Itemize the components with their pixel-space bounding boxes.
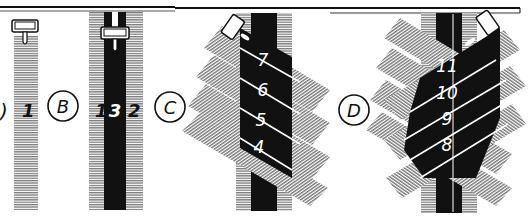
stroke-number: 5 xyxy=(256,110,267,130)
stroke-number: 9 xyxy=(442,109,453,129)
panel-c: C 7 6 5 4 xyxy=(155,13,330,211)
stroke-number: 6 xyxy=(258,80,269,100)
stroke-number: 2 xyxy=(128,100,141,121)
stroke-number: 7 xyxy=(258,50,269,70)
panel-d: D 11 10 9 xyxy=(339,10,526,213)
stroke-number: 8 xyxy=(442,135,453,155)
panel-d-label: D xyxy=(347,100,361,121)
stroke-number: 1 xyxy=(95,100,108,121)
panel-c-label: C xyxy=(164,97,177,118)
roller-stroke-sequence-diagram: ) 1 B 1 3 2 C xyxy=(0,0,528,220)
stroke-number: 3 xyxy=(109,100,122,121)
stroke-number: 1 xyxy=(22,100,35,121)
panel-b: B 1 3 2 xyxy=(48,12,143,210)
stroke-number: 10 xyxy=(436,83,458,103)
panel-a-label: ) xyxy=(0,99,8,123)
stroke-number: 4 xyxy=(254,137,265,157)
ceiling-line xyxy=(0,7,520,13)
stroke-number: 11 xyxy=(436,56,458,76)
panel-a: ) 1 xyxy=(0,20,38,210)
panel-b-label: B xyxy=(57,96,69,117)
